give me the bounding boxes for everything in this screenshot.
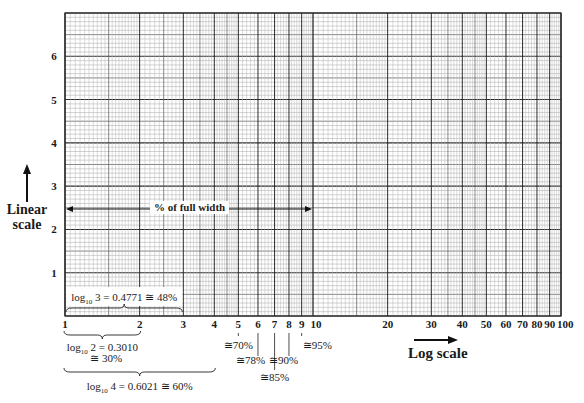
arrow-up-icon: [23, 164, 31, 174]
x-tick-label: 100: [557, 318, 574, 330]
full-width-label: % of full width: [150, 201, 229, 214]
log2-percent: ≅ 30%: [90, 352, 122, 364]
x-tick-label: 1: [62, 318, 68, 330]
x-tick-label: 9: [299, 318, 305, 330]
percent-label: ≅90%: [269, 354, 298, 366]
x-tick-label: 8: [286, 318, 292, 330]
linear-scale-label: Linear scale: [2, 202, 52, 232]
percent-label: ≅70%: [224, 339, 253, 351]
log4-label: log10 4 = 0.6021 ≅ 60%: [87, 380, 193, 395]
x-tick-label: 10: [311, 318, 323, 330]
x-tick-label: 20: [382, 318, 394, 330]
y-tick-label: 5: [51, 94, 57, 106]
percent-label: ≅78%: [236, 354, 265, 366]
x-tick-label: 40: [457, 318, 469, 330]
percent-label: ≅95%: [303, 339, 332, 351]
log2-brace: [64, 331, 141, 339]
x-tick-label: 6: [255, 318, 261, 330]
y-tick-label: 2: [51, 223, 57, 235]
x-tick-label: 90: [544, 318, 556, 330]
x-tick-label: 80: [531, 318, 543, 330]
x-tick-label: 2: [137, 318, 143, 330]
arrow-right-icon: [448, 336, 458, 344]
x-tick-label: 5: [236, 318, 242, 330]
x-tick-label: 70: [517, 318, 529, 330]
linear-scale-line2: scale: [2, 217, 52, 232]
y-tick-label: 1: [51, 267, 57, 279]
log-linear-graph: log10 3 = 0.4771 ≅ 48%log10 2 = 0.3010≅ …: [0, 0, 584, 403]
log4-brace: [64, 368, 215, 376]
log-scale-label: Log scale: [408, 345, 468, 362]
x-tick-label: 30: [426, 318, 438, 330]
percent-label: ≅85%: [260, 371, 289, 383]
grid-lines: [65, 13, 561, 316]
y-tick-label: 4: [51, 137, 57, 149]
x-tick-label: 60: [500, 318, 512, 330]
y-tick-label: 6: [51, 50, 57, 62]
x-tick-label: 50: [481, 318, 493, 330]
y-tick-label: 3: [51, 180, 57, 192]
x-tick-label: 3: [181, 318, 187, 330]
arrow-left-icon: [66, 206, 73, 212]
x-tick-label: 7: [272, 318, 278, 330]
linear-scale-line1: Linear: [2, 202, 52, 217]
x-tick-label: 4: [212, 318, 218, 330]
